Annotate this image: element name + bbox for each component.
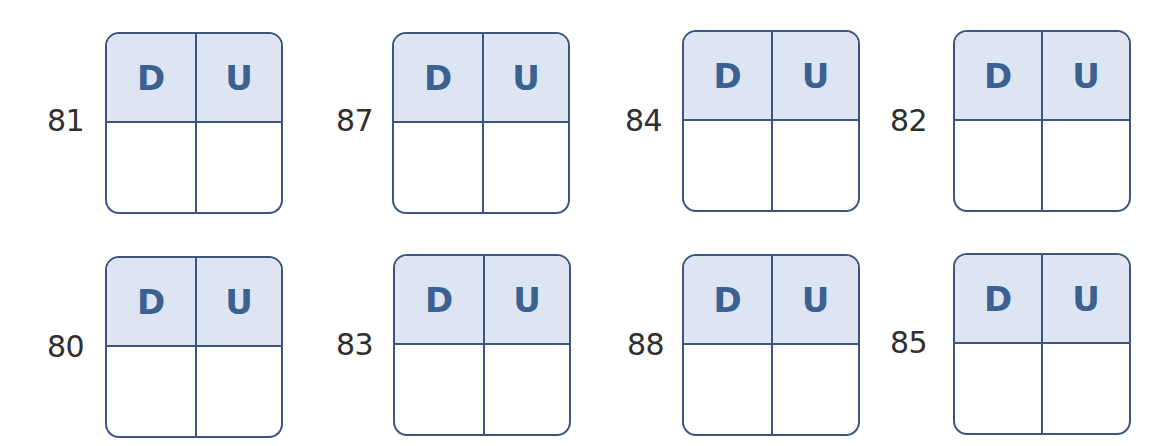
tens-header: D — [684, 256, 771, 343]
units-answer-cell[interactable] — [1043, 121, 1129, 210]
column-divider — [1041, 255, 1043, 433]
tens-answer-cell[interactable] — [684, 121, 771, 210]
place-value-box: D U — [953, 253, 1131, 435]
number-label: 80 — [47, 332, 84, 362]
tens-header: D — [107, 34, 195, 121]
units-answer-cell[interactable] — [197, 123, 281, 212]
tens-answer-cell[interactable] — [684, 345, 771, 434]
units-answer-cell[interactable] — [485, 345, 569, 434]
tens-answer-cell[interactable] — [955, 344, 1041, 433]
units-header: U — [773, 256, 858, 343]
units-answer-cell[interactable] — [773, 121, 858, 210]
place-value-box: D U — [682, 254, 860, 436]
tens-header: D — [684, 32, 771, 119]
column-divider — [771, 256, 773, 434]
tens-header: D — [395, 256, 483, 343]
tens-header: D — [107, 258, 195, 345]
units-answer-cell[interactable] — [484, 123, 568, 212]
units-header: U — [485, 256, 569, 343]
number-label: 85 — [890, 328, 927, 358]
column-divider — [1041, 32, 1043, 210]
tens-header: D — [955, 32, 1041, 119]
column-divider — [483, 256, 485, 434]
units-header: U — [1043, 32, 1129, 119]
tens-answer-cell[interactable] — [955, 121, 1041, 210]
column-divider — [482, 34, 484, 212]
tens-header: D — [955, 255, 1041, 342]
column-divider — [195, 34, 197, 212]
units-header: U — [1043, 255, 1129, 342]
place-value-box: D U — [953, 30, 1131, 212]
number-label: 88 — [627, 330, 664, 360]
place-value-box: D U — [105, 256, 283, 438]
units-answer-cell[interactable] — [773, 345, 858, 434]
place-value-box: D U — [105, 32, 283, 214]
place-value-exercise: 81 D U 87 D U 84 D U — [0, 0, 1168, 446]
number-label: 82 — [890, 106, 927, 136]
place-value-box: D U — [392, 32, 570, 214]
units-header: U — [773, 32, 858, 119]
units-header: U — [484, 34, 568, 121]
units-answer-cell[interactable] — [1043, 344, 1129, 433]
units-header: U — [197, 258, 281, 345]
tens-answer-cell[interactable] — [107, 123, 195, 212]
number-label: 83 — [336, 330, 373, 360]
number-label: 87 — [336, 106, 373, 136]
number-label: 81 — [47, 106, 84, 136]
units-header: U — [197, 34, 281, 121]
tens-answer-cell[interactable] — [107, 347, 195, 436]
place-value-box: D U — [393, 254, 571, 436]
column-divider — [195, 258, 197, 436]
tens-answer-cell[interactable] — [394, 123, 482, 212]
place-value-box: D U — [682, 30, 860, 212]
column-divider — [771, 32, 773, 210]
units-answer-cell[interactable] — [197, 347, 281, 436]
tens-header: D — [394, 34, 482, 121]
tens-answer-cell[interactable] — [395, 345, 483, 434]
number-label: 84 — [625, 106, 662, 136]
